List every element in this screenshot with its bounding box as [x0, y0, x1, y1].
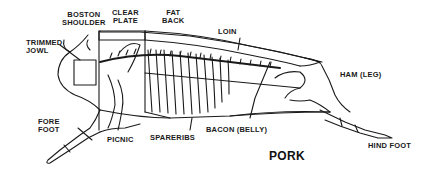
label-trimmed-jowl: TRIMMED JOWL: [26, 39, 62, 55]
label-picnic: PICNIC: [107, 136, 134, 144]
label-fore-foot-line2: FOOT: [38, 126, 60, 134]
label-fore-foot: FORE FOOT: [38, 118, 60, 134]
label-ham-leg: HAM (LEG): [340, 71, 381, 79]
label-fat-back: FAT BACK: [162, 9, 184, 25]
label-hind-foot: HIND FOOT: [368, 142, 411, 150]
label-boston-shoulder: BOSTON SHOULDER: [62, 11, 106, 27]
label-clear-plate-line2: PLATE: [112, 17, 139, 25]
label-loin: LOIN: [218, 28, 237, 36]
diagram-title: PORK: [269, 149, 305, 163]
label-boston-shoulder-line2: SHOULDER: [62, 19, 106, 27]
label-spareribs: SPARERIBS: [150, 134, 195, 142]
label-clear-plate: CLEAR PLATE: [112, 9, 139, 25]
label-fat-back-line2: BACK: [162, 17, 184, 25]
label-bacon-belly: BACON (BELLY): [206, 126, 267, 134]
label-trimmed-jowl-line2: JOWL: [26, 47, 62, 55]
pork-cuts-diagram: BOSTON SHOULDER CLEAR PLATE FAT BACK LOI…: [0, 0, 440, 173]
